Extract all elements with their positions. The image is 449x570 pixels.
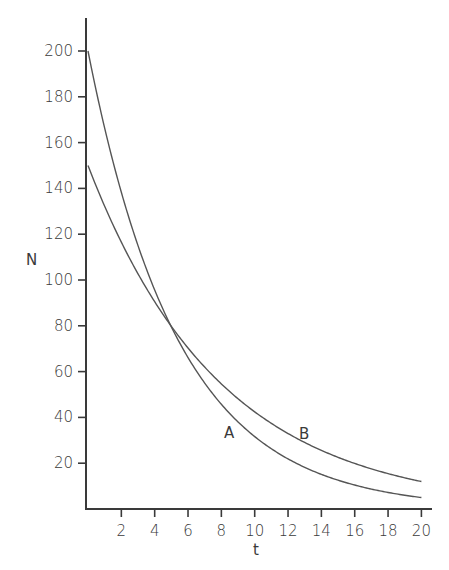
x-tick-label: 10 (245, 522, 264, 540)
y-axis-label: N (26, 251, 37, 269)
axes (85, 18, 432, 510)
y-tick-label: 40 (54, 408, 73, 426)
decay-chart: 20406080100120140160180200 2468101214161… (0, 0, 449, 570)
y-tick-label: 140 (44, 179, 73, 197)
y-ticks: 20406080100120140160180200 (44, 42, 86, 472)
x-tick-label: 16 (345, 522, 364, 540)
y-tick-label: 60 (54, 363, 73, 381)
x-tick-label: 14 (312, 522, 331, 540)
curve-label-a: A (224, 424, 235, 442)
curves (88, 51, 421, 498)
y-tick-label: 120 (44, 225, 73, 243)
y-tick-label: 100 (44, 271, 73, 289)
x-tick-label: 20 (412, 522, 431, 540)
x-tick-label: 18 (379, 522, 398, 540)
x-tick-label: 6 (183, 522, 193, 540)
curve-b (88, 166, 421, 482)
x-tick-label: 12 (278, 522, 297, 540)
x-tick-label: 8 (217, 522, 227, 540)
x-tick-label: 2 (117, 522, 127, 540)
y-tick-label: 80 (54, 317, 73, 335)
x-tick-label: 4 (150, 522, 160, 540)
curve-label-b: B (299, 425, 309, 443)
y-tick-label: 180 (44, 88, 73, 106)
y-tick-label: 200 (44, 42, 73, 60)
x-axis-label: t (253, 541, 259, 559)
x-ticks: 2468101214161820 (117, 509, 431, 540)
y-tick-label: 20 (54, 454, 73, 472)
y-tick-label: 160 (44, 134, 73, 152)
